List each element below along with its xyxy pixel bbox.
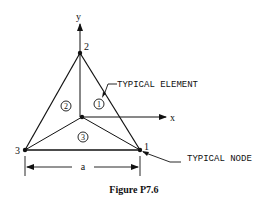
dimension-a: a (25, 156, 140, 176)
triangle-mesh-diagram: y x 2 3 1 2 1 3 TYPICAL ELEMENT (0, 0, 280, 201)
svg-text:2: 2 (64, 102, 68, 111)
svg-text:3: 3 (81, 133, 85, 142)
node-2 (78, 51, 82, 55)
node-center (80, 115, 84, 119)
dimension-label: a (81, 161, 86, 172)
node-1-label: 1 (144, 141, 149, 152)
x-axis: x (82, 112, 175, 123)
y-axis: y (76, 11, 81, 117)
node-1 (138, 148, 142, 152)
x-axis-label: x (170, 112, 175, 123)
typical-element-label: TYPICAL ELEMENT (117, 80, 199, 90)
typical-element-callout: TYPICAL ELEMENT (102, 80, 199, 98)
element-2-label: 2 (61, 101, 71, 111)
node-2-label: 2 (84, 41, 89, 52)
element-1-label: 1 (94, 99, 104, 109)
figure-caption: Figure P7.6 (109, 184, 158, 195)
svg-text:1: 1 (97, 100, 101, 109)
node-3-label: 3 (15, 145, 20, 156)
typical-node-label: TYPICAL NODE (187, 154, 252, 164)
y-axis-label: y (76, 11, 81, 22)
typical-node-callout: TYPICAL NODE (142, 151, 252, 164)
node-3 (23, 148, 27, 152)
element-3-label: 3 (78, 132, 88, 142)
